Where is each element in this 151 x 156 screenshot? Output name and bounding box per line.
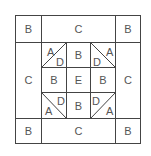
label-center-e: E [75,74,82,86]
label-corner-top-right: B [124,23,131,35]
label-tl-a: A [47,46,55,58]
label-bl-d: D [57,95,65,107]
label-bottom-center-b: B [75,100,82,112]
label-tr-d: D [93,56,101,68]
label-corner-bottom-right: B [124,125,131,137]
label-bl-a: A [45,105,53,117]
label-corner-bottom-left: B [25,125,32,137]
label-br-d: D [92,95,100,107]
label-top-center: C [75,23,83,35]
label-middle-right-b: B [99,74,106,86]
label-middle-right: C [124,74,132,86]
label-tr-a: A [106,46,114,58]
label-br-a: A [106,105,114,117]
label-middle-left: C [25,74,33,86]
label-top-center-b: B [75,49,82,61]
label-middle-left-b: B [50,74,57,86]
label-bottom-center: C [75,125,83,137]
label-corner-top-left: B [25,23,32,35]
label-tl-d: D [56,56,64,68]
quilt-block-diagram: B C B C C B C B A D B D A B E B D A B D … [0,0,151,156]
